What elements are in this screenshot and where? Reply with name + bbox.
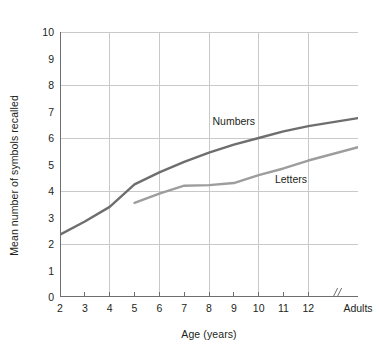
x-axis-tick-labels: 23456789101112Adults bbox=[60, 303, 358, 319]
x-tick-label: 8 bbox=[206, 303, 212, 314]
y-tick-label: 4 bbox=[30, 186, 54, 197]
y-tick-label: 10 bbox=[30, 27, 54, 38]
y-tick-label: 7 bbox=[30, 106, 54, 117]
y-tick-label: 8 bbox=[30, 80, 54, 91]
x-tick-label: 3 bbox=[82, 303, 88, 314]
y-tick-label: 9 bbox=[30, 53, 54, 64]
axis-break-slash bbox=[334, 288, 338, 296]
series-label-letters: Letters bbox=[275, 174, 307, 185]
y-tick-label: 2 bbox=[30, 239, 54, 250]
y-axis-title: Mean number of symbols recalled bbox=[0, 0, 28, 351]
y-tick-label: 3 bbox=[30, 212, 54, 223]
y-tick-label: 5 bbox=[30, 159, 54, 170]
x-tick-label: 9 bbox=[231, 303, 237, 314]
series-label-numbers: Numbers bbox=[213, 116, 256, 127]
x-tick-label: Adults bbox=[343, 303, 372, 314]
x-tick-label: 10 bbox=[253, 303, 265, 314]
y-axis-tick-labels: 012345678910 bbox=[28, 32, 54, 297]
axis-break-slash bbox=[338, 288, 342, 296]
y-tick-label: 1 bbox=[30, 265, 54, 276]
line-chart-figure: Mean number of symbols recalled 01234567… bbox=[0, 0, 379, 351]
x-tick-label: 5 bbox=[132, 303, 138, 314]
plot-area: NumbersLetters bbox=[60, 32, 358, 297]
x-tick-label: 2 bbox=[57, 303, 63, 314]
x-tick-label: 6 bbox=[156, 303, 162, 314]
x-tick-label: 7 bbox=[181, 303, 187, 314]
series-line-letters bbox=[135, 147, 359, 203]
x-tick-label: 4 bbox=[107, 303, 113, 314]
plot-svg bbox=[60, 32, 358, 297]
y-tick-label: 6 bbox=[30, 133, 54, 144]
y-tick-label: 0 bbox=[30, 292, 54, 303]
x-tick-label: 11 bbox=[278, 303, 289, 314]
axis-break-marker bbox=[334, 288, 342, 296]
x-axis-title: Age (years) bbox=[60, 328, 358, 340]
x-tick-label: 12 bbox=[302, 303, 314, 314]
